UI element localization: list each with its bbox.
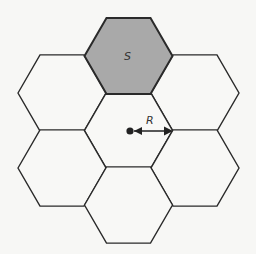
hex-cell-diagram: S R	[0, 0, 256, 254]
cell-label-top: S	[124, 50, 131, 63]
radius-label: R	[146, 114, 154, 127]
base-station-dot-icon	[126, 127, 133, 134]
